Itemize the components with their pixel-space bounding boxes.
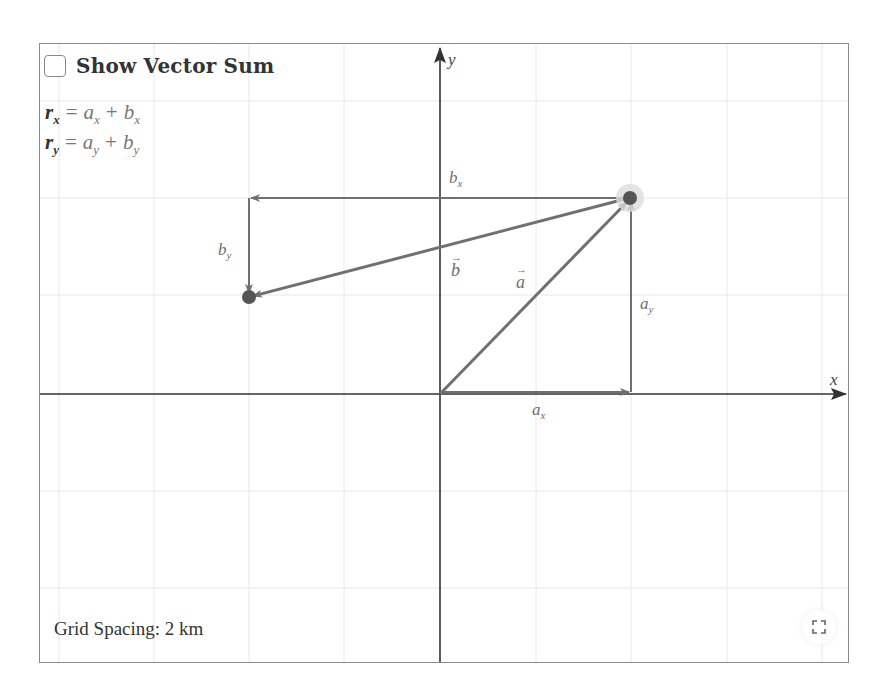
draggable-point-a[interactable] bbox=[616, 184, 644, 212]
vector-canvas[interactable]: y x bx by ay ax →b →a Show Vector Sum rx… bbox=[39, 43, 849, 663]
show-vector-sum-toggle[interactable]: Show Vector Sum bbox=[44, 54, 274, 78]
grid-spacing-note: Grid Spacing: 2 km bbox=[54, 618, 203, 640]
bx-label: bx bbox=[449, 168, 462, 189]
by-label: by bbox=[218, 240, 231, 261]
equation-rx: rx=ax+bx bbox=[45, 100, 140, 128]
fullscreen-button[interactable] bbox=[802, 610, 836, 644]
draggable-point-b[interactable] bbox=[238, 286, 260, 308]
fullscreen-icon bbox=[812, 620, 826, 634]
equation-ry: ry=ay+by bbox=[45, 130, 139, 158]
checkbox-icon[interactable] bbox=[44, 55, 66, 77]
vector-a-label: →a bbox=[516, 272, 525, 293]
show-vector-sum-label: Show Vector Sum bbox=[76, 54, 274, 78]
plot-area bbox=[40, 44, 849, 663]
vector-a bbox=[440, 202, 627, 394]
ax-label: ax bbox=[532, 400, 545, 421]
ay-label: ay bbox=[640, 294, 653, 315]
vector-b bbox=[253, 198, 629, 296]
grid bbox=[40, 44, 849, 663]
vector-b-label: →b bbox=[451, 260, 460, 281]
x-axis-label: x bbox=[830, 370, 838, 390]
y-axis-label: y bbox=[448, 50, 456, 70]
